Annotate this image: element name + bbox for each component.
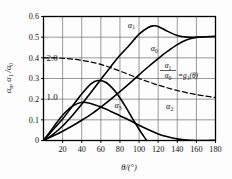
secondary-axis-label: 2.0: [47, 53, 59, 63]
x-tick-label: 180: [209, 145, 221, 154]
y-tick-label: 0.6: [29, 12, 39, 21]
y-tick-label: 0.4: [29, 54, 39, 63]
x-tick-labels: 20406080100120140160180: [59, 145, 222, 154]
x-tick-label: 100: [133, 145, 145, 154]
x-axis-title: θ/(°): [121, 163, 137, 172]
x-tick-label: 40: [78, 145, 86, 154]
x-tick-label: 80: [116, 145, 124, 154]
x-axis-title-text: θ/(°): [121, 163, 137, 172]
y-tick-label: 0: [35, 136, 39, 145]
x-tick-label: 120: [152, 145, 164, 154]
x-tick-label: 20: [59, 145, 67, 154]
y-tick-label: 0.2: [29, 95, 39, 104]
x-tick-label: 160: [190, 145, 202, 154]
y-tick-label: 0.3: [29, 74, 39, 83]
chart-figure: 20406080100120140160180 00.10.20.30.40.5…: [0, 0, 232, 179]
x-tick-label: 60: [97, 145, 105, 154]
line-chart: 20406080100120140160180 00.10.20.30.40.5…: [0, 0, 232, 179]
y-tick-label: 0.1: [29, 116, 39, 125]
x-tick-label: 140: [171, 145, 183, 154]
y-tick-label: 0.5: [29, 33, 39, 42]
secondary-axis-label: 1.0: [47, 92, 59, 102]
